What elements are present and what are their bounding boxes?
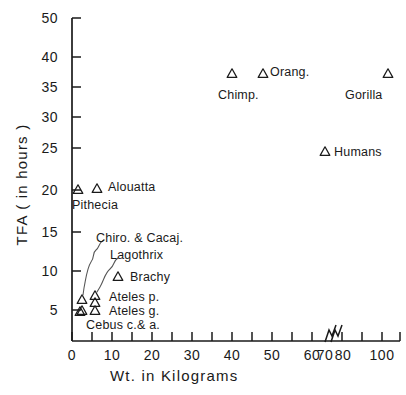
x-axis-break-zigzag xyxy=(325,325,342,342)
x-tick-40: 40 xyxy=(212,347,252,363)
x-tick-10: 10 xyxy=(92,347,132,363)
marker-ateles-g xyxy=(90,306,100,315)
point-label-lagothrix: Lagothrix xyxy=(110,248,163,262)
marker-chiro-cacaj xyxy=(77,295,87,304)
y-axis-title: TFA ( in hours ) xyxy=(13,117,30,253)
y-tick-50: 50 xyxy=(14,10,58,26)
point-label-orang: Orang. xyxy=(270,65,309,79)
y-tick-5: 5 xyxy=(14,302,58,318)
marker-pithecia xyxy=(73,185,83,194)
plot-canvas xyxy=(0,0,406,395)
y-axis-ticks xyxy=(72,18,81,310)
x-axis-ticks xyxy=(72,332,400,341)
leader-lagothrix xyxy=(97,258,118,292)
marker-alouatta xyxy=(92,184,102,193)
scatter-plot: 50 40 35 30 25 20 15 10 5 0 10 20 30 40 … xyxy=(0,0,406,395)
point-label-chiro-cacaj: Chiro. & Cacaj. xyxy=(96,231,183,245)
leader-chiro-cacaj xyxy=(83,240,104,295)
y-tick-10: 10 xyxy=(14,263,58,279)
point-label-pithecia: Pithecia xyxy=(72,198,118,212)
x-tick-0: 0 xyxy=(52,347,92,363)
x-tick-80: 80 xyxy=(328,347,358,363)
x-tick-30: 30 xyxy=(172,347,212,363)
point-label-ateles-g: Ateles g. xyxy=(109,304,159,318)
marker-humans xyxy=(320,147,330,156)
point-label-brachy: Brachy xyxy=(130,270,170,284)
x-axis-title: Wt. in Kilograms xyxy=(110,367,238,384)
point-label-cebus: Cebus c.& a. xyxy=(86,318,160,332)
point-label-chimp: Chimp. xyxy=(218,88,259,102)
point-label-humans: Humans xyxy=(334,145,382,159)
point-label-alouatta: Alouatta xyxy=(108,180,155,194)
y-tick-40: 40 xyxy=(14,49,58,65)
x-tick-100: 100 xyxy=(364,347,400,363)
x-tick-20: 20 xyxy=(132,347,172,363)
marker-orang xyxy=(258,69,268,78)
marker-chimp xyxy=(227,69,237,78)
marker-brachy xyxy=(113,272,123,281)
y-tick-35: 35 xyxy=(14,79,58,95)
point-label-gorilla: Gorilla xyxy=(345,88,383,102)
marker-gorilla xyxy=(383,69,393,78)
point-label-ateles-p: Ateles p. xyxy=(109,290,159,304)
x-tick-50: 50 xyxy=(252,347,292,363)
